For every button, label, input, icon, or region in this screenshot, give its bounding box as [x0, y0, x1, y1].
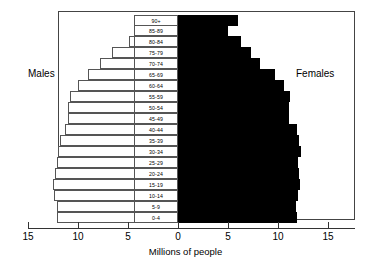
- age-group-label: 30-34: [134, 146, 178, 157]
- female-bar: [178, 135, 299, 146]
- age-group-label: 55-59: [134, 91, 178, 102]
- x-axis-tick-label: 0: [166, 231, 190, 242]
- female-bar: [178, 124, 297, 135]
- female-bar: [178, 69, 275, 80]
- x-axis-title: Millions of people: [0, 246, 371, 257]
- age-group-label: 10-14: [134, 190, 178, 201]
- age-group-label: 60-64: [134, 80, 178, 91]
- female-bar: [178, 80, 284, 91]
- age-group-row: 35-39: [58, 135, 355, 146]
- female-bar: [178, 190, 298, 201]
- age-group-label: 80-84: [134, 36, 178, 47]
- female-bar: [178, 47, 251, 58]
- age-group-row: 15-19: [58, 179, 355, 190]
- x-axis-tick: [278, 222, 279, 228]
- female-bar: [178, 15, 238, 26]
- age-group-label: 50-54: [134, 102, 178, 113]
- age-group-row: 0-4: [58, 212, 355, 223]
- age-group-row: 40-44: [58, 124, 355, 135]
- age-group-row: 10-14: [58, 190, 355, 201]
- age-group-row: 20-24: [58, 168, 355, 179]
- female-bar: [178, 179, 300, 190]
- female-bar: [178, 201, 296, 212]
- age-group-label: 35-39: [134, 135, 178, 146]
- age-group-label: 25-29: [134, 157, 178, 168]
- female-bar: [178, 212, 297, 223]
- age-group-row: 50-54: [58, 102, 355, 113]
- age-group-label: 40-44: [134, 124, 178, 135]
- x-axis-tick: [78, 222, 79, 228]
- age-group-row: 80-84: [58, 36, 355, 47]
- age-group-label: 70-74: [134, 58, 178, 69]
- age-group-label: 90+: [134, 15, 178, 26]
- age-group-row: 30-34: [58, 146, 355, 157]
- x-axis-tick-label: 5: [116, 231, 140, 242]
- age-group-label: 85-89: [134, 25, 178, 36]
- x-axis-tick-label: 15: [316, 231, 340, 242]
- female-bar: [178, 36, 241, 47]
- age-group-row: 90+: [58, 15, 355, 26]
- female-bar: [178, 102, 289, 113]
- x-axis-tick: [28, 222, 29, 228]
- x-axis-tick: [178, 222, 179, 228]
- x-axis-tick-label: 5: [216, 231, 240, 242]
- bars-layer: 90+85-8980-8475-7970-7465-6960-6455-5950…: [58, 11, 355, 220]
- males-annotation: Males: [28, 68, 55, 79]
- female-bar: [178, 58, 260, 69]
- age-group-label: 65-69: [134, 69, 178, 80]
- female-bar: [178, 168, 299, 179]
- age-group-row: 55-59: [58, 91, 355, 102]
- x-axis-tick: [228, 222, 229, 228]
- female-bar: [178, 25, 228, 36]
- female-bar: [178, 146, 301, 157]
- x-axis-tick-label: 10: [66, 231, 90, 242]
- female-bar: [178, 91, 290, 102]
- age-group-label: 75-79: [134, 47, 178, 58]
- age-group-row: 25-29: [58, 157, 355, 168]
- age-group-label: 15-19: [134, 179, 178, 190]
- age-group-row: 5-9: [58, 201, 355, 212]
- age-group-row: 60-64: [58, 80, 355, 91]
- x-axis-tick-label: 15: [16, 231, 40, 242]
- females-annotation: Females: [296, 68, 334, 79]
- female-bar: [178, 113, 289, 124]
- x-axis-tick: [328, 222, 329, 228]
- x-axis-tick-label: 10: [266, 231, 290, 242]
- age-group-row: 75-79: [58, 47, 355, 58]
- age-group-label: 45-49: [134, 113, 178, 124]
- x-axis-line: [28, 228, 355, 229]
- age-group-row: 45-49: [58, 113, 355, 124]
- age-group-label: 20-24: [134, 168, 178, 179]
- x-axis-tick: [128, 222, 129, 228]
- population-pyramid-chart: 90+85-8980-8475-7970-7465-6960-6455-5950…: [0, 0, 371, 265]
- age-group-row: 85-89: [58, 25, 355, 36]
- age-group-label: 5-9: [134, 201, 178, 212]
- age-group-label: 0-4: [134, 212, 178, 223]
- female-bar: [178, 157, 298, 168]
